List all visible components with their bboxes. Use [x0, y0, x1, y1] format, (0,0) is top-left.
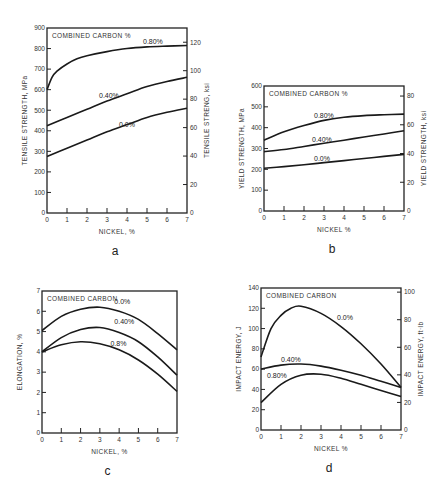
- plot-frame: [264, 86, 404, 211]
- y2-tick-label: 60: [190, 124, 198, 131]
- series-label: 0.0%: [337, 314, 353, 321]
- x-tick-label: 7: [185, 216, 189, 223]
- x-tick-label: 4: [117, 436, 121, 443]
- y2-tick-label: 40: [190, 152, 198, 159]
- y2-tick-label: 80: [404, 316, 412, 323]
- y-tick-label: 900: [34, 24, 45, 31]
- x-tick-label: 0: [45, 216, 49, 223]
- y2-axis-label: YIELD STRENGTH, ksi: [420, 111, 427, 187]
- x-tick-label: 5: [145, 216, 149, 223]
- chart-b: 012345670100200300400500600020406080YIEL…: [238, 82, 427, 256]
- x-tick-label: 1: [65, 216, 69, 223]
- panel-caption: c: [105, 464, 111, 478]
- x-tick-label: 6: [165, 216, 169, 223]
- y-tick-label: 1: [36, 409, 40, 416]
- y2-axis-label: TENSILE STRENG, ksi: [203, 83, 210, 158]
- y-tick-label: 200: [251, 166, 262, 173]
- x-axis-label: NICKEL, %: [91, 448, 127, 455]
- y-tick-label: 0: [258, 207, 262, 214]
- x-tick-label: 6: [382, 214, 386, 221]
- x-tick-label: 1: [59, 436, 63, 443]
- series-label: 0.80%: [143, 38, 163, 45]
- y-tick-label: 7: [36, 287, 40, 294]
- chart-a: 0123456701002003004005006007008009000204…: [21, 24, 210, 258]
- y-tick-label: 300: [251, 145, 262, 152]
- series-label: 0.40%: [281, 356, 301, 363]
- series-label: 0.40%: [312, 136, 332, 143]
- legend-title: COMBINED CARBON: [266, 292, 337, 299]
- y-tick-label: 100: [248, 325, 259, 332]
- x-tick-label: 3: [105, 216, 109, 223]
- x-tick-label: 1: [282, 214, 286, 221]
- x-tick-label: 3: [98, 436, 102, 443]
- y-axis-label: ELONGATION, %: [16, 334, 23, 391]
- y2-axis-label: IMPACT ENERGY, ft·lb: [417, 322, 424, 397]
- y2-tick-label: 20: [190, 181, 198, 188]
- x-tick-label: 2: [85, 216, 89, 223]
- y-tick-label: 80: [252, 345, 260, 352]
- x-tick-label: 6: [156, 436, 160, 443]
- series-curve: [47, 108, 187, 156]
- figure-canvas: 0123456701002003004005006007008009000204…: [0, 0, 444, 495]
- y2-tick-label: 80: [190, 95, 198, 102]
- x-tick-label: 4: [342, 214, 346, 221]
- y2-tick-label: 40: [404, 371, 412, 378]
- series-label: 0.0%: [114, 298, 130, 305]
- y-axis-label: YIELD STRENGTH, MPa: [238, 108, 245, 189]
- x-tick-label: 2: [299, 433, 303, 440]
- y-tick-label: 4: [36, 348, 40, 355]
- panel-caption: b: [329, 242, 336, 256]
- y-tick-label: 3: [36, 368, 40, 375]
- series-curve: [264, 154, 404, 168]
- series-curve: [47, 45, 187, 89]
- x-axis-label: NICKEL %: [314, 445, 348, 452]
- y2-tick-label: 0: [407, 207, 411, 214]
- series-curve: [47, 77, 187, 125]
- x-tick-label: 1: [279, 433, 283, 440]
- y2-tick-label: 100: [404, 288, 415, 295]
- x-tick-label: 4: [339, 433, 343, 440]
- x-axis-label: NICKEL, %: [99, 228, 135, 235]
- y2-tick-label: 60: [407, 121, 415, 128]
- y2-tick-label: 100: [190, 67, 201, 74]
- y2-tick-label: 20: [407, 179, 415, 186]
- x-tick-label: 4: [125, 216, 129, 223]
- y2-tick-label: 0: [190, 209, 194, 216]
- series-label: 0.80%: [314, 112, 334, 119]
- y-tick-label: 700: [34, 65, 45, 72]
- y2-tick-label: 120: [190, 39, 201, 46]
- x-tick-label: 6: [379, 433, 383, 440]
- chart-d: 01234567020406080100120140020406080100IM…: [235, 284, 424, 475]
- series-label: 0.40%: [114, 318, 134, 325]
- y-tick-label: 600: [251, 82, 262, 89]
- series-curve: [264, 131, 404, 152]
- y-tick-label: 140: [248, 284, 259, 291]
- panel-caption: d: [326, 461, 333, 475]
- y-tick-label: 120: [248, 305, 259, 312]
- plot-frame: [47, 28, 187, 213]
- y2-tick-label: 0: [404, 426, 408, 433]
- series-label: 0.8%: [110, 340, 126, 347]
- y-tick-label: 500: [251, 103, 262, 110]
- y-tick-label: 100: [34, 189, 45, 196]
- series-curve: [42, 342, 177, 392]
- x-axis-label: NICKEL %: [317, 226, 351, 233]
- x-tick-label: 5: [137, 436, 141, 443]
- y-tick-label: 0: [41, 209, 45, 216]
- y-tick-label: 400: [251, 124, 262, 131]
- legend-title: COMBINED CARBON: [47, 295, 118, 302]
- y-tick-label: 5: [36, 328, 40, 335]
- x-tick-label: 0: [259, 433, 263, 440]
- y-tick-label: 800: [34, 45, 45, 52]
- y-axis-label: TENSILE STRENGTH, MPa: [21, 75, 28, 165]
- y2-tick-label: 60: [404, 344, 412, 351]
- series-curve: [264, 114, 404, 140]
- plot-frame: [42, 291, 177, 433]
- x-tick-label: 5: [362, 214, 366, 221]
- legend-title: COMBINED CARBON %: [269, 90, 348, 97]
- panel-caption: a: [112, 244, 119, 258]
- x-tick-label: 2: [79, 436, 83, 443]
- series-label: 0.0%: [119, 121, 135, 128]
- y-tick-label: 200: [34, 168, 45, 175]
- y-tick-label: 300: [34, 148, 45, 155]
